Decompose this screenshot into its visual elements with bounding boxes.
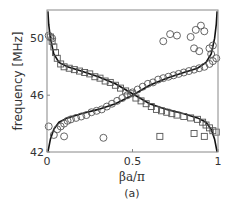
panel-label: (a) [124, 187, 139, 200]
plot-series [45, 11, 220, 152]
y-tick-label: 50 [30, 32, 44, 45]
square-marker [157, 133, 163, 139]
circle-marker [160, 38, 167, 45]
circle-marker [100, 134, 107, 141]
circle-marker [167, 31, 174, 38]
circle-marker [45, 123, 52, 130]
x-tick-label: 1 [215, 155, 222, 168]
square-marker [191, 131, 197, 137]
x-tick-label: 0 [44, 155, 51, 168]
figure: 42465000.51 frequency [MHz] βa/π (a) [0, 0, 232, 207]
y-tick-label: 42 [30, 146, 44, 159]
circle-marker [173, 32, 180, 39]
chart: 42465000.51 frequency [MHz] βa/π (a) [0, 0, 232, 207]
circle-marker [201, 28, 208, 35]
circle-marker [61, 133, 68, 140]
square-marker [201, 133, 207, 139]
y-axis-label: frequency [MHz] [11, 31, 25, 130]
circle-marker [187, 33, 194, 40]
x-tick-label: 0.5 [124, 155, 142, 168]
x-axis-label: βa/π [119, 170, 145, 184]
y-tick-label: 46 [30, 89, 44, 102]
